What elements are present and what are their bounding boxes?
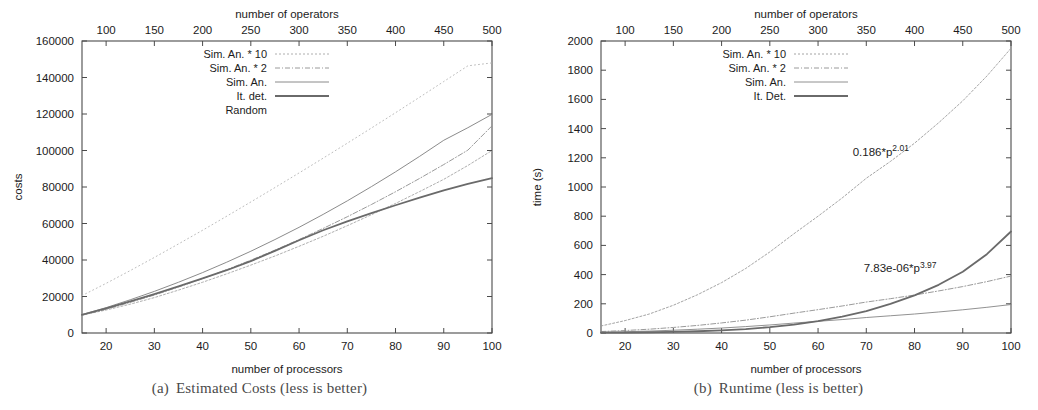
x-tick-label: 70	[860, 340, 873, 352]
series-line	[601, 232, 1011, 333]
x-tick-label: 90	[956, 340, 969, 352]
y-tick-label: 1600	[567, 93, 593, 105]
y-tick-label: 0	[587, 327, 593, 339]
panel-estimated-costs: number of operators100150200250300350400…	[0, 0, 519, 410]
series-line	[82, 151, 492, 316]
top-tick-label: 100	[616, 24, 635, 36]
y-tick-label: 200	[574, 298, 593, 310]
legend-label: Sim. An. * 10	[722, 48, 786, 60]
y-tick-label: 1200	[567, 152, 593, 164]
top-tick-label: 400	[905, 24, 924, 36]
top-tick-label: 200	[193, 24, 212, 36]
legend-label: It. det.	[236, 90, 267, 102]
y-tick-label: 800	[574, 210, 593, 222]
top-tick-label: 400	[386, 24, 405, 36]
legend-label: Sim. An. * 10	[203, 48, 267, 60]
top-tick-label: 450	[434, 24, 453, 36]
legend-label: Sim. An. * 2	[729, 62, 786, 74]
panel-caption-b: (b)Runtime (less is better)	[519, 380, 1038, 397]
y-tick-label: 2000	[567, 35, 593, 47]
x-tick-label: 20	[619, 340, 632, 352]
caption-text-a: Estimated Costs (less is better)	[176, 380, 367, 396]
y-tick-label: 400	[574, 269, 593, 281]
x-tick-label: 50	[244, 340, 257, 352]
series-line	[601, 48, 1011, 326]
x-tick-label: 100	[482, 340, 501, 352]
y-tick-label: 80000	[42, 181, 74, 193]
legend-label: It. Det.	[754, 90, 786, 102]
y-tick-label: 600	[574, 239, 593, 251]
top-tick-label: 350	[857, 24, 876, 36]
x-tick-label: 60	[293, 340, 306, 352]
panel-caption-a: (a)Estimated Costs (less is better)	[0, 380, 519, 397]
top-tick-label: 150	[664, 24, 683, 36]
y-tick-label: 120000	[36, 108, 74, 120]
top-tick-label: 150	[145, 24, 164, 36]
top-tick-label: 500	[482, 24, 501, 36]
x-tick-label: 80	[389, 340, 402, 352]
y-axis-title: time (s)	[531, 168, 543, 207]
chart-estimated-costs: number of operators100150200250300350400…	[0, 0, 519, 410]
y-tick-label: 20000	[42, 291, 74, 303]
top-axis-title: number of operators	[754, 8, 858, 20]
x-tick-label: 30	[667, 340, 680, 352]
top-tick-label: 350	[338, 24, 357, 36]
legend-label: Random	[225, 104, 267, 116]
y-tick-label: 40000	[42, 254, 74, 266]
x-tick-label: 90	[437, 340, 450, 352]
x-axis-title: number of processors	[750, 363, 861, 375]
top-tick-label: 500	[1001, 24, 1020, 36]
y-tick-label: 100000	[36, 145, 74, 157]
top-tick-label: 450	[953, 24, 972, 36]
x-tick-label: 80	[908, 340, 921, 352]
x-tick-label: 30	[148, 340, 161, 352]
series-line	[82, 178, 492, 315]
caption-tag-b: (b)	[694, 380, 712, 396]
y-tick-label: 60000	[42, 218, 74, 230]
legend-label: Sim. An. * 2	[210, 62, 267, 74]
y-tick-label: 1000	[567, 181, 593, 193]
panel-runtime: number of operators100150200250300350400…	[519, 0, 1038, 410]
y-tick-label: 0	[68, 327, 74, 339]
top-tick-label: 300	[289, 24, 308, 36]
figure-row: number of operators100150200250300350400…	[0, 0, 1038, 410]
x-tick-label: 20	[100, 340, 113, 352]
x-tick-label: 50	[763, 340, 776, 352]
top-axis-title: number of operators	[235, 8, 339, 20]
series-line	[82, 63, 492, 296]
plot-frame	[82, 41, 492, 333]
legend-label: Sim. An.	[745, 76, 786, 88]
y-tick-label: 160000	[36, 35, 74, 47]
y-tick-label: 1400	[567, 123, 593, 135]
top-tick-label: 300	[808, 24, 827, 36]
y-tick-label: 1800	[567, 64, 593, 76]
top-tick-label: 250	[760, 24, 779, 36]
chart-runtime: number of operators100150200250300350400…	[519, 0, 1038, 410]
legend-label: Sim. An.	[226, 76, 267, 88]
caption-tag-a: (a)	[152, 380, 169, 396]
y-axis-title: costs	[12, 173, 24, 200]
y-tick-label: 140000	[36, 72, 74, 84]
series-line	[82, 114, 492, 314]
series-line	[82, 126, 492, 315]
top-tick-label: 250	[241, 24, 260, 36]
formula-annotation: 7.83e-06*p3.97	[864, 260, 937, 275]
top-tick-label: 200	[712, 24, 731, 36]
caption-text-b: Runtime (less is better)	[719, 380, 863, 396]
formula-annotation: 0.186*p2.01	[853, 143, 909, 158]
x-tick-label: 60	[812, 340, 825, 352]
top-tick-label: 100	[97, 24, 116, 36]
x-axis-title: number of processors	[231, 363, 342, 375]
x-tick-label: 40	[196, 340, 209, 352]
x-tick-label: 70	[341, 340, 354, 352]
x-tick-label: 100	[1001, 340, 1020, 352]
x-tick-label: 40	[715, 340, 728, 352]
